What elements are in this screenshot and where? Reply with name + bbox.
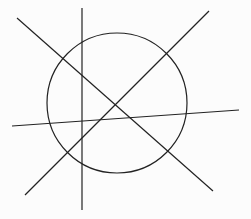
geometry-figure	[0, 0, 251, 219]
diagram-canvas	[0, 0, 251, 219]
diagonal-ascending-line	[25, 11, 209, 195]
lines-group	[12, 8, 239, 210]
near-horizontal-line	[12, 110, 239, 126]
